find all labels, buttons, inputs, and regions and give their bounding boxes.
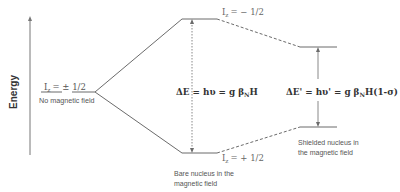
lower-spin-label: Iz= + 1/2: [222, 153, 264, 164]
upper-spin-label: Iz= − 1/2: [222, 7, 264, 18]
shielded-energy-equation: ΔE' = hυ' = g βNH(1-σ): [286, 87, 398, 98]
degenerate-spin-label: Iz= ± 1/2: [44, 82, 86, 93]
axis-arrowhead-icon: [28, 16, 32, 21]
delta-e-bare-arrow: [190, 19, 194, 153]
nmr-energy-level-diagram: Energy Iz= ± 1/2 No magnetic field Iz= −…: [0, 0, 400, 192]
energy-axis-label: Energy: [8, 75, 19, 109]
zeeman-split: [95, 19, 217, 153]
bare-nucleus-caption: Bare nucleus in the magnetic field: [174, 170, 236, 188]
shielded-nucleus-caption: Shielded nucleus in the magnetic field: [298, 139, 361, 157]
bare-energy-equation: ΔE = hυ = g βNH: [176, 87, 258, 98]
no-field-caption: No magnetic field: [39, 96, 95, 105]
shielding-shift: [217, 19, 300, 153]
energy-axis: [28, 16, 32, 155]
